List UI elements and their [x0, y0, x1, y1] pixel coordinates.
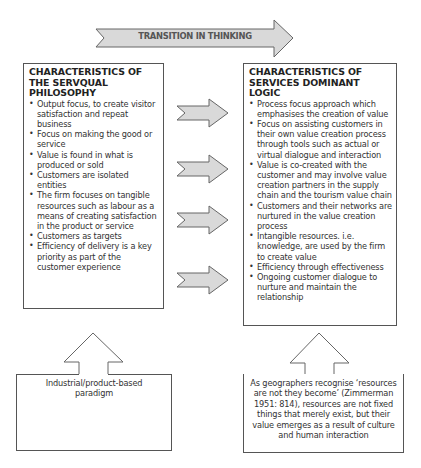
geographers-text: As geographers recognise ‘resources are … [246, 378, 401, 440]
industrial-paradigm-text: Industrial/product-based paradigm [36, 378, 152, 399]
